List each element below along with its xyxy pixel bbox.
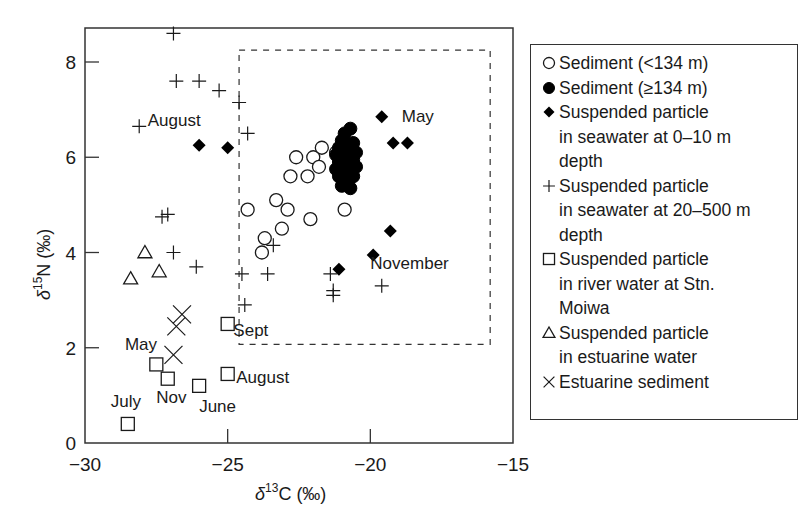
legend-label: Sediment (<134 m) [559, 51, 708, 76]
y-axis-title: δ15N (‰) [31, 229, 54, 300]
legend-item-open-triangle: Suspended particle in estuarine water [539, 321, 793, 370]
open-square-marker [221, 367, 234, 380]
annotation-label: Nov [156, 388, 187, 407]
legend-label: Sediment (≥134 m) [559, 76, 708, 101]
filled-circle-marker [344, 182, 357, 195]
y-tick-label: 0 [65, 433, 76, 454]
x-marker [164, 346, 182, 364]
open-circle-marker [270, 194, 283, 207]
open-circle-marker [543, 57, 554, 68]
plus-marker [238, 298, 252, 312]
open-square-marker [121, 417, 134, 430]
legend-label: Suspended particle in seawater at 0–10 m… [559, 100, 731, 174]
legend-item-open-circle: Sediment (<134 m) [539, 51, 793, 76]
legend-label: Suspended particle in river water at Stn… [559, 247, 715, 321]
open-square-marker [161, 372, 174, 385]
open-circle-marker [241, 203, 254, 216]
open-circle-marker [275, 222, 288, 235]
x-tick-label: −30 [69, 454, 101, 475]
plus-marker [189, 260, 203, 274]
series-filled-diamond [193, 110, 414, 275]
open-square-marker [221, 317, 234, 330]
open-triangle-marker [152, 265, 166, 277]
plus-icon [539, 174, 559, 198]
plus-marker [241, 126, 255, 140]
open-triangle-marker [138, 246, 152, 258]
annotation-label: June [199, 397, 236, 416]
plus-marker [192, 74, 206, 88]
annotation-label: November [370, 254, 449, 273]
open-circle-marker [290, 151, 303, 164]
open-circle-marker [338, 203, 351, 216]
series-filled-circle [330, 122, 363, 195]
annotation-label: August [236, 368, 289, 387]
plus-marker [155, 210, 169, 224]
annotation-label: May [402, 107, 435, 126]
open-circle-icon [539, 51, 559, 75]
filled-circle-icon [539, 76, 559, 100]
open-circle-marker [301, 170, 314, 183]
legend-label: Estuarine sediment [559, 370, 709, 395]
legend-label: Suspended particle in estuarine water [559, 321, 709, 370]
filled-diamond-marker [193, 139, 206, 152]
filled-diamond-marker [543, 106, 554, 117]
plus-marker [543, 180, 555, 192]
plus-marker [212, 84, 226, 98]
plus-marker [261, 267, 275, 281]
filled-diamond-icon [539, 100, 559, 124]
legend-item-filled-diamond: Suspended particle in seawater at 0–10 m… [539, 100, 793, 174]
open-triangle-icon [539, 321, 559, 345]
open-square-marker [193, 379, 206, 392]
filled-diamond-marker [401, 136, 414, 149]
series-x [164, 305, 191, 363]
x-tick-label: −15 [497, 454, 529, 475]
x-axis-title: δ13C (‰) [255, 481, 326, 504]
y-tick-label: 4 [65, 243, 76, 264]
open-square-marker [543, 253, 554, 264]
plus-marker [235, 267, 249, 281]
legend-item-filled-circle: Sediment (≥134 m) [539, 76, 793, 101]
filled-diamond-marker [375, 110, 388, 123]
open-square-marker [150, 358, 163, 371]
open-triangle-marker [543, 327, 555, 337]
annotation-label: May [125, 335, 158, 354]
plus-marker [132, 119, 146, 133]
y-axis-ticks: 02468 [65, 52, 99, 454]
plus-marker [169, 74, 183, 88]
legend-item-plus: Suspended particle in seawater at 20–500… [539, 174, 793, 248]
plus-marker [375, 279, 389, 293]
open-circle-marker [281, 203, 294, 216]
open-circle-marker [312, 160, 325, 173]
x-axis-ticks: −30−25−20−15 [69, 429, 529, 475]
y-tick-label: 6 [65, 147, 76, 168]
filled-diamond-marker [387, 136, 400, 149]
filled-diamond-marker [384, 225, 397, 238]
filled-circle-marker [543, 82, 554, 93]
plot-frame [85, 28, 513, 443]
annotation-label: July [111, 392, 142, 411]
open-triangle-marker [124, 272, 138, 284]
filled-diamond-marker [221, 141, 234, 154]
x-tick-label: −20 [354, 454, 386, 475]
legend-label: Suspended particle in seawater at 20–500… [559, 174, 751, 248]
open-square-icon [539, 247, 559, 271]
open-circle-marker [255, 246, 268, 259]
plus-marker [166, 246, 180, 260]
x-marker [544, 376, 555, 387]
y-tick-label: 8 [65, 52, 76, 73]
x-icon [539, 370, 559, 394]
chart-legend: Sediment (<134 m)Sediment (≥134 m)Suspen… [530, 44, 798, 420]
annotation-label: Sept [233, 321, 268, 340]
x-tick-label: −25 [212, 454, 244, 475]
series-open-triangle [124, 246, 167, 284]
open-circle-marker [258, 232, 271, 245]
y-tick-label: 2 [65, 338, 76, 359]
open-circle-marker [304, 213, 317, 226]
legend-item-open-square: Suspended particle in river water at Stn… [539, 247, 793, 321]
legend-item-x: Estuarine sediment [539, 370, 793, 395]
plus-marker [232, 95, 246, 109]
annotation-label: August [148, 111, 201, 130]
open-circle-marker [284, 170, 297, 183]
open-circle-marker [315, 141, 328, 154]
plus-marker [161, 207, 175, 221]
